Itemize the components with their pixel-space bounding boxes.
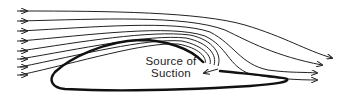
label-line-2: Suction	[143, 67, 199, 79]
suction-arrow-icon	[204, 69, 218, 73]
source-of-suction-label: Source of Suction	[143, 55, 199, 79]
airfoil-suction-diagram	[0, 0, 341, 98]
label-line-1: Source of	[143, 55, 199, 67]
